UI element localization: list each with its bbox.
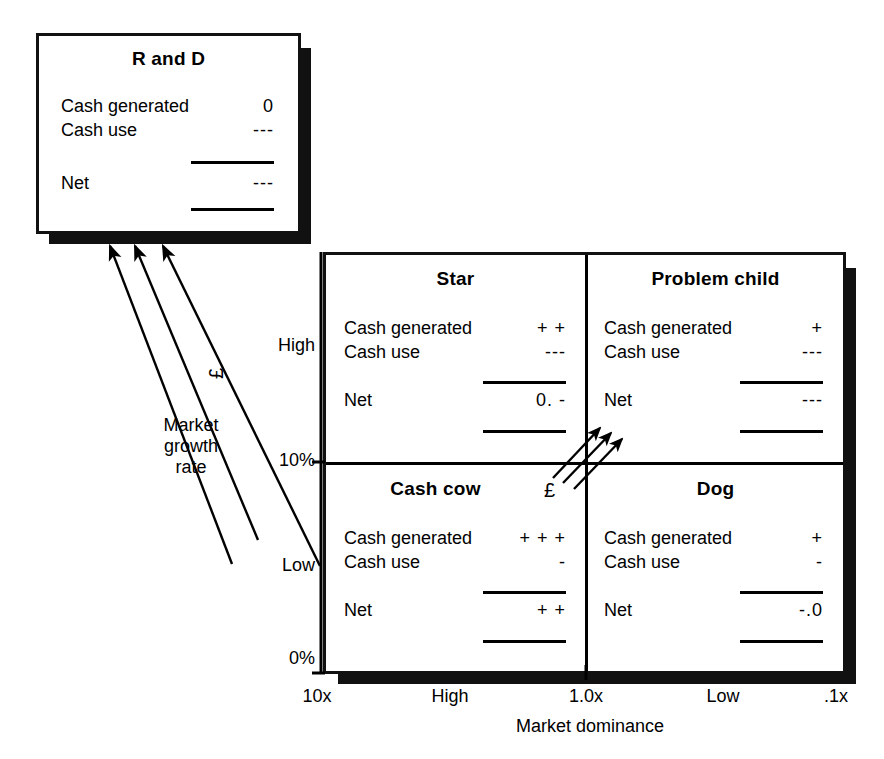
y-axis-tick-10pct: 10%	[240, 450, 315, 471]
y-axis-label: Market growth rate	[136, 415, 246, 479]
star-total-rule	[483, 430, 566, 433]
x-axis-tick-10x: 10x	[282, 686, 352, 707]
cash-cow-subtotal-rule	[483, 591, 566, 594]
problem-child-row-cash-use-label: Cash use	[604, 342, 680, 363]
rd-panel-title: R and D	[39, 48, 298, 70]
y-axis-label-line-3: rate	[136, 457, 246, 478]
quadrant-star-title: Star	[326, 268, 585, 290]
rd-cash-flow-arrow-3	[163, 246, 320, 566]
rd-panel-shadow-bottom	[49, 233, 311, 244]
x-axis-tick-1-0x: 1.0x	[551, 686, 621, 707]
y-axis-tick-low: Low	[240, 555, 315, 576]
problem-child-row-net-value: ---	[738, 390, 823, 411]
cash-cow-row-cash-use-value: -	[474, 552, 566, 573]
rd-panel-shadow-right	[300, 48, 311, 244]
rd-row-net-value: ---	[189, 173, 274, 194]
dog-subtotal-rule	[740, 591, 823, 594]
cash-cow-total-rule	[483, 640, 566, 643]
rd-total-rule	[191, 208, 274, 211]
rd-cash-flow-arrow-2	[135, 246, 258, 540]
dog-row-cash-generated-value: +	[738, 528, 823, 549]
quadrant-problem-child-title: Problem child	[588, 268, 843, 290]
problem-child-row-cash-use-value: ---	[738, 342, 823, 363]
cash-cow-row-cash-generated-label: Cash generated	[344, 528, 472, 549]
problem-child-subtotal-rule	[740, 381, 823, 384]
rd-subtotal-rule	[191, 161, 274, 164]
y-axis-label-line-2: growth	[136, 436, 246, 457]
dog-row-net-label: Net	[604, 600, 632, 621]
diagram-canvas: R and D Cash generated 0 Cash use --- Ne…	[0, 0, 884, 759]
cash-cow-row-net-label: Net	[344, 600, 372, 621]
rd-row-net-label: Net	[61, 173, 89, 194]
star-row-cash-generated-label: Cash generated	[344, 318, 472, 339]
rd-row-cash-use-value: ---	[189, 120, 274, 141]
rd-cash-flow-arrows	[110, 246, 320, 566]
quadrant-problem-child[interactable]: Problem child Cash generated + Cash use …	[588, 255, 843, 462]
x-axis-tick-point1x: .1x	[806, 686, 866, 707]
dog-total-rule	[740, 640, 823, 643]
dog-row-cash-generated-label: Cash generated	[604, 528, 732, 549]
rd-row-cash-use-label: Cash use	[61, 120, 137, 141]
dog-row-cash-use-value: -	[738, 552, 823, 573]
x-axis-label: Market dominance	[440, 716, 740, 737]
quadrant-cash-cow[interactable]: Cash cow £ Cash generated + + + Cash use…	[326, 465, 585, 671]
problem-child-row-net-label: Net	[604, 390, 632, 411]
rd-panel[interactable]: R and D Cash generated 0 Cash use --- Ne…	[36, 33, 301, 234]
quadrant-dog[interactable]: Dog Cash generated + Cash use - Net -.0	[588, 465, 843, 671]
star-row-net-label: Net	[344, 390, 372, 411]
quadrant-dog-title: Dog	[588, 478, 843, 500]
problem-child-row-cash-generated-label: Cash generated	[604, 318, 732, 339]
y-axis-tick-high: High	[240, 335, 315, 356]
rd-row-cash-generated-label: Cash generated	[61, 96, 189, 117]
dog-row-cash-use-label: Cash use	[604, 552, 680, 573]
matrix-shadow-bottom	[338, 673, 856, 684]
y-axis-tick-0pct: 0%	[240, 648, 315, 669]
cash-cow-row-cash-use-label: Cash use	[344, 552, 420, 573]
problem-child-row-cash-generated-value: +	[738, 318, 823, 339]
star-subtotal-rule	[483, 381, 566, 384]
dog-row-net-value: -.0	[738, 600, 823, 621]
x-axis-tick-low: Low	[688, 686, 758, 707]
problem-child-total-rule	[740, 430, 823, 433]
x-axis-tick-high: High	[415, 686, 485, 707]
quadrant-star[interactable]: Star Cash generated + + Cash use --- Net…	[326, 255, 585, 462]
star-row-cash-use-value: ---	[481, 342, 566, 363]
cash-cow-pound-badge: £	[544, 479, 555, 502]
rd-cash-flow-arrow-1	[110, 246, 232, 564]
rd-row-cash-generated-value: 0	[189, 96, 274, 117]
star-row-cash-generated-value: + +	[481, 318, 566, 339]
star-row-cash-use-label: Cash use	[344, 342, 420, 363]
star-row-net-value: 0. -	[481, 390, 566, 411]
y-axis-label-line-1: Market	[136, 415, 246, 436]
matrix-box[interactable]: Star Cash generated + + Cash use --- Net…	[323, 252, 846, 674]
rd-flow-pound-badge: £	[205, 363, 228, 385]
matrix-shadow-right	[845, 268, 856, 684]
cash-cow-row-cash-generated-value: + + +	[474, 528, 566, 549]
cash-cow-row-net-value: + +	[474, 600, 566, 621]
